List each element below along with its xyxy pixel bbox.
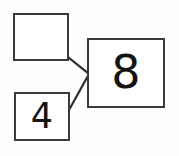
known-addend-box[interactable]: 4 xyxy=(14,92,70,141)
number-bond-diagram: 4 8 xyxy=(0,0,179,156)
top-connector-line xyxy=(68,57,89,74)
whole-box[interactable]: 8 xyxy=(87,38,165,108)
bottom-connector-line xyxy=(69,74,89,110)
known-addend-value: 4 xyxy=(31,99,53,134)
missing-addend-value xyxy=(15,15,67,59)
whole-value: 8 xyxy=(111,49,140,95)
missing-addend-box[interactable] xyxy=(13,13,69,61)
